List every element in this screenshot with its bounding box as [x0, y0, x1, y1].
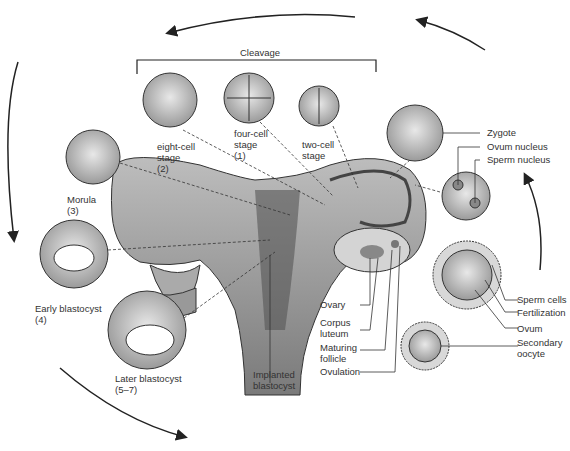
ovum-label: Ovum	[517, 323, 542, 334]
secondary-oocyte-label: Secondary oocyte	[517, 337, 562, 359]
cleavage-bracket	[137, 60, 376, 74]
eight-cell-embryo	[143, 73, 197, 127]
zygote-cell	[387, 105, 443, 161]
implanted-blastocyst-label: Implanted blastocyst	[253, 369, 295, 391]
morula-label: Morula (3)	[67, 194, 96, 216]
maturing-follicle-label: Maturing follicle	[320, 342, 357, 364]
eight-cell-stage-label: eight-cell stage (2)	[157, 141, 195, 174]
ovary-label: Ovary	[320, 299, 345, 310]
sperm-cells-label: Sperm cells	[517, 294, 567, 305]
zygote-label: Zygote	[487, 127, 516, 138]
ovulation-label: Ovulation	[320, 366, 360, 377]
corpus-luteum-label: Corpus luteum	[320, 317, 351, 339]
cleavage-label: Cleavage	[240, 47, 280, 58]
two-cell-stage-label: two-cell stage	[302, 139, 334, 161]
sperm-nucleus-label: Sperm nucleus	[487, 154, 550, 165]
fertilization-label: Fertilization	[517, 307, 566, 318]
ovum-nucleus-label: Ovum nucleus	[487, 141, 548, 152]
fertilized-ovum	[442, 172, 490, 220]
later-blastocyst-label: Later blastocyst (5–7)	[115, 373, 182, 395]
early-blastocyst-label: Early blastocyst (4)	[35, 303, 102, 325]
morula-embryo	[66, 130, 120, 184]
four-cell-stage-label: four-cell stage (1)	[234, 128, 268, 161]
